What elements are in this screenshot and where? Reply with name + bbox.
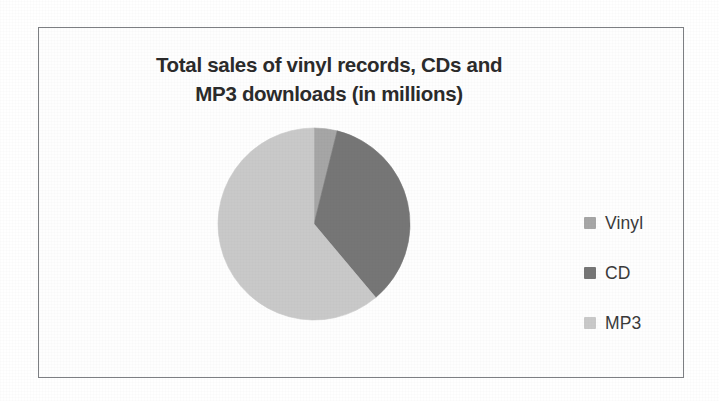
plot-area: Vinyl CD MP3 — [39, 28, 685, 379]
legend-label-cd: CD — [605, 263, 630, 284]
legend-item-cd[interactable]: CD — [584, 248, 679, 298]
chart-frame: Total sales of vinyl records, CDs and MP… — [38, 27, 684, 378]
legend-swatch-cd-icon — [584, 267, 596, 279]
chart-legend: Vinyl CD MP3 — [584, 198, 679, 348]
pie-slices — [218, 128, 410, 320]
legend-label-mp3: MP3 — [605, 313, 641, 334]
legend-label-vinyl: Vinyl — [605, 213, 643, 234]
pie-chart — [214, 124, 414, 324]
legend-swatch-vinyl-icon — [584, 217, 596, 229]
legend-swatch-mp3-icon — [584, 317, 596, 329]
legend-item-mp3[interactable]: MP3 — [584, 298, 679, 348]
legend-item-vinyl[interactable]: Vinyl — [584, 198, 679, 248]
